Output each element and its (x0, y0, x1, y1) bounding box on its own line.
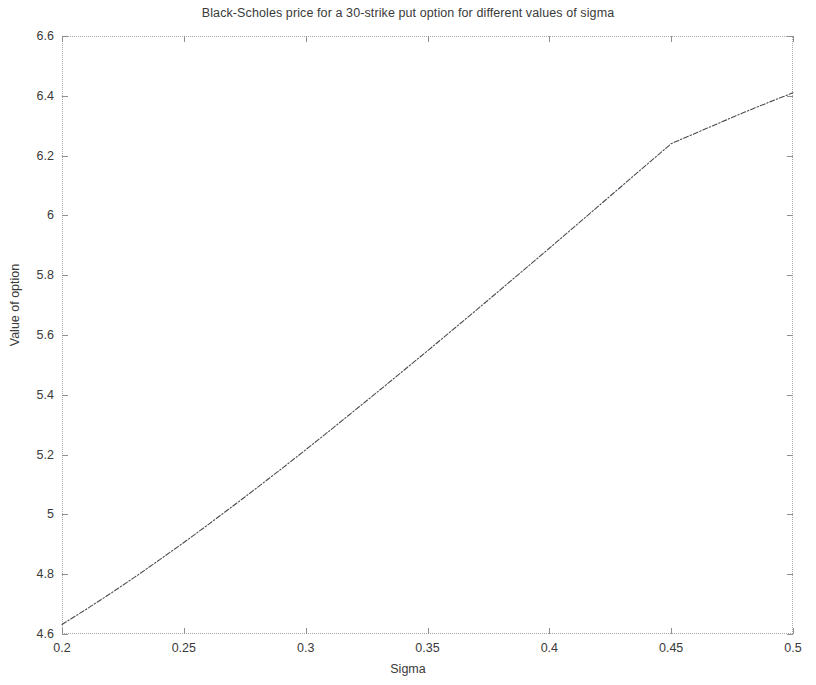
y-tick-mark (62, 275, 68, 276)
data-curve-layer (62, 36, 793, 634)
x-tick-mark (793, 36, 794, 42)
y-tick-label: 4.8 (37, 567, 54, 581)
x-tick-mark (306, 628, 307, 634)
y-tick-mark (787, 215, 793, 216)
y-tick-mark (787, 36, 793, 37)
x-tick-label: 0.45 (659, 641, 683, 655)
y-tick-mark (62, 455, 68, 456)
y-tick-label: 5.8 (37, 268, 54, 282)
y-tick-mark (62, 335, 68, 336)
x-tick-label: 0.35 (415, 641, 439, 655)
figure-canvas: Black-Scholes price for a 30-strike put … (0, 0, 816, 685)
y-tick-label: 6.6 (37, 29, 54, 43)
y-tick-mark (787, 96, 793, 97)
y-tick-mark (787, 156, 793, 157)
y-tick-mark (62, 156, 68, 157)
y-tick-mark (62, 634, 68, 635)
x-tick-label: 0.2 (53, 641, 70, 655)
y-tick-label: 6 (47, 208, 54, 222)
y-tick-label: 5.6 (37, 328, 54, 342)
y-tick-label: 4.6 (37, 627, 54, 641)
y-tick-mark (787, 335, 793, 336)
y-tick-mark (62, 514, 68, 515)
y-tick-mark (787, 634, 793, 635)
y-tick-mark (62, 395, 68, 396)
y-tick-label: 5.2 (37, 448, 54, 462)
x-tick-label: 0.3 (297, 641, 314, 655)
chart-title: Black-Scholes price for a 30-strike put … (0, 6, 816, 20)
x-tick-label: 0.25 (172, 641, 196, 655)
y-axis-label: Value of option (8, 235, 22, 375)
y-tick-mark (62, 574, 68, 575)
x-tick-mark (671, 628, 672, 634)
y-tick-mark (787, 275, 793, 276)
x-tick-mark (184, 628, 185, 634)
plot-area (62, 36, 793, 634)
x-tick-label: 0.5 (784, 641, 801, 655)
x-tick-mark (428, 628, 429, 634)
y-tick-mark (62, 36, 68, 37)
y-tick-mark (787, 514, 793, 515)
x-tick-mark (549, 628, 550, 634)
y-tick-mark (787, 395, 793, 396)
x-tick-mark (184, 36, 185, 42)
y-tick-mark (787, 455, 793, 456)
y-tick-mark (62, 215, 68, 216)
x-tick-mark (306, 36, 307, 42)
x-tick-label: 0.4 (541, 641, 558, 655)
y-tick-label: 5 (47, 507, 54, 521)
y-tick-label: 6.4 (37, 89, 54, 103)
x-tick-mark (549, 36, 550, 42)
x-tick-mark (793, 628, 794, 634)
y-tick-label: 6.2 (37, 149, 54, 163)
y-tick-label: 5.4 (37, 388, 54, 402)
y-tick-mark (787, 574, 793, 575)
series-black-scholes-put-price (62, 93, 793, 625)
x-tick-mark (671, 36, 672, 42)
x-tick-mark (428, 36, 429, 42)
y-tick-mark (62, 96, 68, 97)
x-axis-label: Sigma (0, 662, 816, 676)
